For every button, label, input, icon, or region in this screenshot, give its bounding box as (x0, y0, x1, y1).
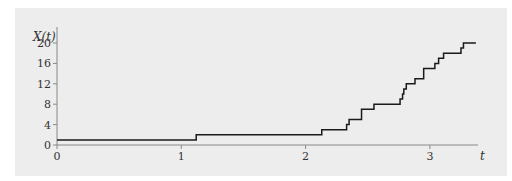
axes (57, 27, 478, 145)
ticks: 0481216200123 (37, 37, 433, 163)
x-axis-label: t (480, 149, 485, 163)
y-tick-label: 8 (44, 98, 51, 111)
y-tick-label: 12 (37, 78, 51, 91)
x-tick-label: 1 (178, 150, 185, 163)
y-tick-label: 0 (44, 139, 51, 152)
counting-process-line (57, 43, 476, 140)
step-chart: 0481216200123 X(t) t (0, 0, 512, 181)
y-tick-label: 4 (44, 119, 51, 132)
x-tick-label: 0 (54, 150, 61, 163)
y-axis-label: X(t) (32, 30, 56, 44)
y-tick-label: 16 (37, 57, 51, 70)
x-tick-label: 3 (426, 150, 433, 163)
x-tick-label: 2 (302, 150, 309, 163)
